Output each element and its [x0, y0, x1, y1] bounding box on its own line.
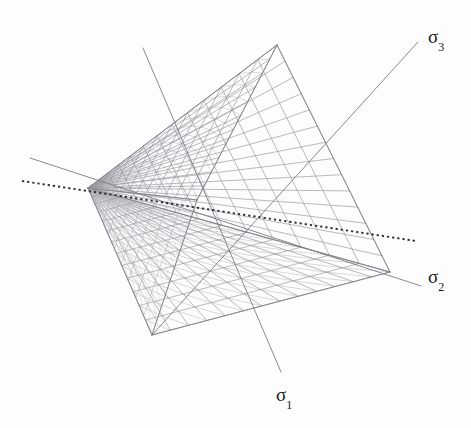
axis-label-sigma3-subscript: 3: [438, 40, 444, 54]
axis-line-sigma2: [30, 158, 421, 286]
axis-label-sigma2-subscript: 2: [438, 280, 444, 294]
axis-label-sigma1-symbol: σ: [276, 384, 286, 405]
axis-label-sigma3-symbol: σ: [428, 26, 438, 47]
figure-canvas: σ3 σ2 σ1: [0, 0, 471, 428]
axis-line-sigma3: [152, 42, 418, 335]
axis-label-sigma3: σ3: [428, 26, 444, 52]
yield-surface-wireframe: [0, 0, 471, 428]
principal-stress-axes: [30, 42, 421, 372]
axis-label-sigma2-symbol: σ: [428, 266, 438, 287]
axis-label-sigma1: σ1: [276, 384, 292, 410]
axis-label-sigma2: σ2: [428, 266, 444, 292]
axis-label-sigma1-subscript: 1: [286, 398, 292, 412]
